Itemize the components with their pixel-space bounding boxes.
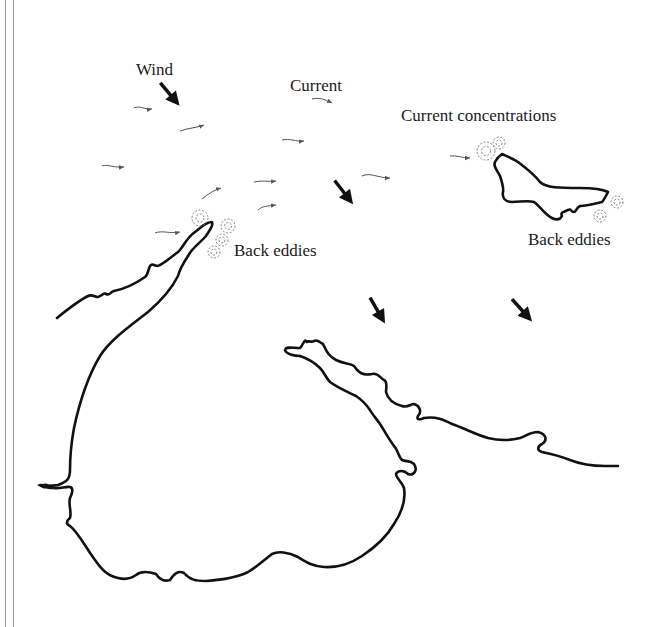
peninsula-coastline [38, 222, 416, 581]
current-arrow [202, 188, 221, 199]
current-concentrations-label: Current concentrations [401, 107, 556, 124]
current-arrow [450, 156, 470, 158]
eddy [594, 210, 606, 222]
current-label: Current [290, 77, 342, 94]
eddy [216, 234, 228, 246]
eddy [611, 196, 623, 208]
wind-arrow [364, 294, 391, 327]
wind-label: Wind [136, 61, 173, 78]
current-arrow [134, 107, 152, 109]
eddy [221, 219, 235, 233]
current-arrow [102, 165, 124, 167]
wind-arrow [507, 294, 537, 326]
back-eddies-peninsula-label: Back eddies [234, 242, 317, 259]
eddy [208, 246, 220, 258]
eddy [477, 142, 495, 160]
current-arrow [258, 205, 276, 210]
current-arrow [312, 98, 332, 103]
current-arrow [282, 139, 304, 141]
current-arrow [362, 175, 390, 178]
current-arrow [155, 232, 180, 233]
wind-arrow [155, 78, 185, 110]
wind-arrow [329, 176, 359, 208]
island-coastline [494, 154, 608, 219]
middle-coastline [285, 340, 618, 466]
back-eddies-island-label: Back eddies [528, 231, 611, 248]
current-arrow [254, 181, 276, 182]
current-arrow [180, 125, 204, 131]
eddy [493, 137, 505, 149]
